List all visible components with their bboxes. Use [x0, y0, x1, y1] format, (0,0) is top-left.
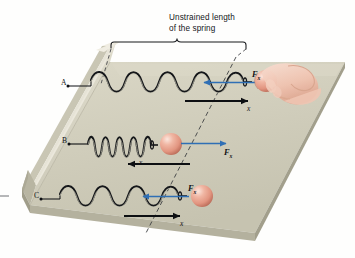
row-B-ball — [160, 133, 182, 155]
figure-canvas — [0, 0, 355, 258]
row-C-force-label: Fx — [188, 184, 196, 195]
row-C-displacement-label: x — [180, 219, 183, 228]
row-label-C: C — [34, 191, 39, 200]
row-B-displacement-label: x — [139, 158, 142, 167]
caption-line-2: of the spring — [169, 24, 215, 35]
row-label-B: B — [62, 136, 67, 145]
caption-line-1: Unstrained length — [169, 13, 235, 24]
spring-force-figure: Unstrained length of the spring A B C Fx… — [0, 0, 355, 258]
row-label-A: A — [61, 78, 66, 87]
row-B-force-label: Fx — [224, 148, 232, 159]
row-A-force-label: Fx — [252, 70, 260, 81]
row-A-displacement-label: x — [247, 104, 250, 113]
